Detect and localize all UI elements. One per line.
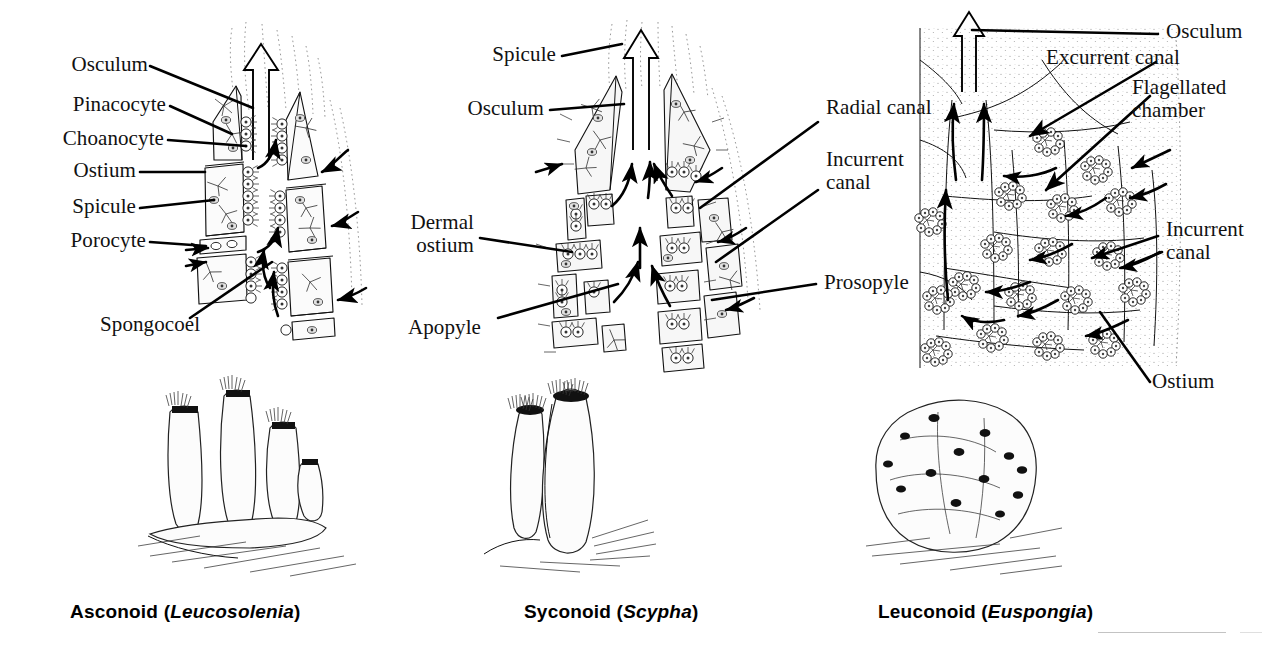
- caption-asconoid-genus: Leucosolenia: [170, 601, 294, 622]
- label-asconoid-pinacocyte: Pinacocyte: [0, 93, 166, 116]
- syconoid-exit-arrow: [624, 30, 658, 150]
- euspongia-habit-sketch: [866, 400, 1062, 574]
- asconoid-right-wall: [269, 92, 335, 340]
- label-syconoid-radial-canal: Radial canal: [826, 96, 932, 119]
- caption-asconoid-suffix: ): [294, 601, 301, 622]
- asconoid-diagram: [140, 22, 366, 340]
- label-asconoid-choanocyte: Choanocyte: [0, 127, 164, 150]
- caption-leuconoid: Leuconoid (Euspongia): [878, 601, 1093, 623]
- figure-canvas: Osculum Pinacocyte Choanocyte Ostium Spi…: [0, 0, 1280, 649]
- caption-syconoid: Syconoid (Scypha): [524, 601, 698, 623]
- label-leuconoid-ostium: Ostium: [1152, 370, 1214, 393]
- scan-artifact-line: [1098, 632, 1226, 633]
- label-asconoid-ostium: Ostium: [0, 159, 136, 182]
- syconoid-right-wall: [656, 74, 743, 372]
- label-syconoid-apopyle: Apopyle: [408, 316, 481, 339]
- caption-leuconoid-suffix: ): [1087, 601, 1094, 622]
- leucosolenia-habit-sketch: [138, 375, 356, 576]
- caption-syconoid-genus: Scypha: [623, 601, 692, 622]
- scan-artifact-line-2: [1240, 632, 1262, 633]
- label-leuconoid-excurrent-canal: Excurrent canal: [1046, 46, 1180, 69]
- caption-syconoid-prefix: Syconoid (: [524, 601, 623, 622]
- label-syconoid-osculum: Osculum: [396, 97, 544, 120]
- caption-syconoid-suffix: ): [692, 601, 699, 622]
- syconoid-diagram: [480, 20, 818, 372]
- label-syconoid-spicule: Spicule: [396, 43, 556, 66]
- label-leuconoid-flagellated-chamber: Flagellated chamber: [1132, 76, 1226, 121]
- label-syconoid-dermal-ostium: Dermal ostium: [396, 211, 474, 256]
- label-syconoid-incurrent-canal: Incurrent canal: [826, 148, 904, 193]
- scypha-habit-sketch: [484, 378, 656, 572]
- label-asconoid-spongocoel: Spongocoel: [100, 313, 200, 336]
- label-asconoid-porocyte: Porocyte: [0, 229, 146, 252]
- caption-asconoid-prefix: Asconoid (: [70, 601, 170, 622]
- caption-leuconoid-genus: Euspongia: [988, 601, 1087, 622]
- caption-leuconoid-prefix: Leuconoid (: [878, 601, 988, 622]
- label-asconoid-osculum: Osculum: [0, 53, 148, 76]
- label-asconoid-spicule: Spicule: [0, 195, 136, 218]
- label-leuconoid-incurrent-canal: Incurrent canal: [1166, 218, 1244, 263]
- label-syconoid-prosopyle: Prosopyle: [824, 271, 909, 294]
- label-leuconoid-osculum: Osculum: [1166, 20, 1243, 43]
- syconoid-left-wall: [536, 76, 626, 354]
- caption-asconoid: Asconoid (Leucosolenia): [70, 601, 301, 623]
